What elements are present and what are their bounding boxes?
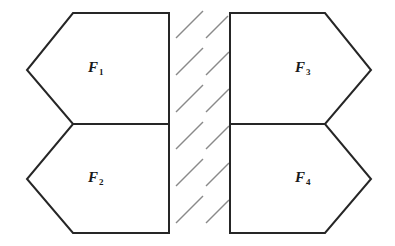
- hatch-stroke: [206, 163, 229, 186]
- hatch-stroke: [206, 52, 229, 75]
- hatch-stroke: [176, 122, 203, 149]
- region-f3-label-subscript: 3: [305, 67, 311, 77]
- hatch-band-group: [176, 11, 229, 223]
- hatch-stroke: [206, 16, 228, 38]
- hatch-stroke: [176, 48, 203, 75]
- partition-diagram: [0, 0, 395, 246]
- region-f4-label-letter: F: [295, 169, 305, 185]
- hatch-stroke: [176, 11, 203, 38]
- region-f2-label-subscript: 2: [98, 177, 104, 187]
- region-f4-label-subscript: 4: [305, 177, 311, 187]
- region-f3-label: F3: [295, 60, 311, 77]
- region-f1-label: F1: [88, 60, 104, 77]
- region-f3-label-letter: F: [295, 59, 305, 75]
- region-f4-label: F4: [295, 170, 311, 187]
- hatch-stroke: [206, 126, 229, 149]
- region-f1-label-letter: F: [88, 59, 98, 75]
- hatch-stroke: [176, 159, 203, 186]
- region-f1-label-subscript: 1: [98, 67, 104, 77]
- figure-container: F1 F2 F3 F4: [0, 0, 395, 246]
- hatch-stroke: [176, 85, 203, 112]
- hatch-stroke: [206, 89, 229, 112]
- region-f2-label-letter: F: [88, 169, 98, 185]
- hatch-stroke: [176, 196, 203, 223]
- region-f2-label: F2: [88, 170, 104, 187]
- hatch-stroke: [206, 200, 229, 223]
